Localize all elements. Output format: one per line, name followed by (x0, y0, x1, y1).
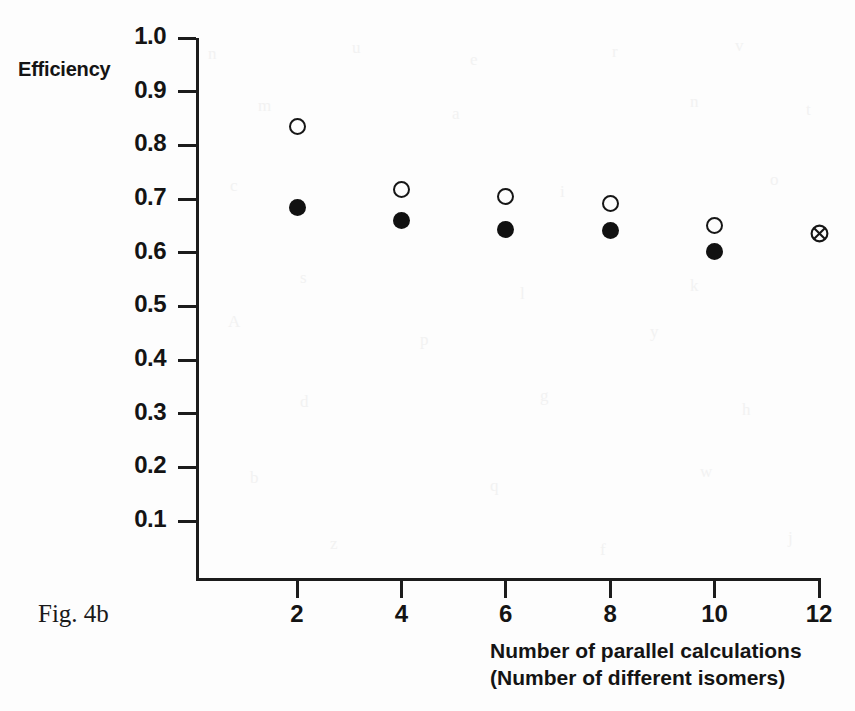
data-point-filled-circle (706, 243, 723, 260)
scan-artifact: t (806, 100, 812, 120)
y-axis-tick (178, 144, 196, 147)
y-axis-tick-label: 0.6 (108, 237, 166, 265)
scan-artifact: r (612, 42, 619, 62)
scan-artifact: u (352, 38, 362, 58)
y-axis-tick-label: 0.2 (108, 451, 166, 479)
scan-artifact: l (520, 284, 526, 304)
y-axis-tick (178, 90, 196, 93)
x-axis-tick-label: 4 (371, 600, 431, 628)
y-axis-tick (178, 37, 196, 40)
scan-artifact: h (742, 400, 752, 420)
figure-scatter-plot: nuervmantcioslkApydghbqwzfj Efficiency 0… (0, 0, 855, 711)
data-point-filled-circle (393, 212, 410, 229)
y-axis-tick-label: 0.3 (108, 398, 166, 426)
x-axis-tick (818, 581, 821, 598)
y-axis-tick-label: 0.8 (108, 129, 166, 157)
data-point-open-circle (602, 195, 619, 212)
x-axis-title-line-1: Number of parallel calculations (490, 638, 802, 665)
figure-caption: Fig. 4b (38, 600, 109, 628)
x-axis-tick (400, 581, 403, 598)
y-axis-tick-label: 0.9 (108, 76, 166, 104)
scan-artifact: b (250, 468, 260, 488)
scan-artifact: y (650, 322, 660, 342)
y-axis-tick-label: 1.0 (108, 22, 166, 50)
x-axis-title-line-2: (Number of different isomers) (490, 665, 802, 692)
y-axis-tick (178, 412, 196, 415)
x-axis-tick (296, 581, 299, 598)
scan-artifact: d (300, 392, 310, 412)
y-axis-tick (178, 198, 196, 201)
y-axis-tick-label: 0.1 (108, 505, 166, 533)
scan-artifact: w (700, 462, 713, 482)
scan-artifact: k (690, 276, 700, 296)
scan-artifact: A (228, 312, 241, 332)
x-axis-tick-label: 2 (267, 600, 327, 628)
x-axis-tick (609, 581, 612, 598)
y-axis-line (196, 38, 199, 581)
y-axis-tick-label: 0.5 (108, 290, 166, 318)
y-axis-tick (178, 251, 196, 254)
x-axis-line (196, 578, 821, 581)
data-point-filled-circle (289, 199, 306, 216)
data-point-filled-circle (497, 221, 514, 238)
scan-artifact: q (490, 476, 500, 496)
scan-artifact: v (735, 36, 745, 56)
data-point-open-circle (393, 181, 410, 198)
scan-artifact: n (690, 92, 700, 112)
scan-artifact: f (600, 540, 607, 560)
scan-artifact: i (560, 182, 566, 202)
scan-artifact: s (300, 268, 308, 288)
y-axis-tick (178, 466, 196, 469)
scan-artifact: j (788, 528, 794, 548)
y-axis-tick (178, 359, 196, 362)
x-axis-title: Number of parallel calculations (Number … (490, 638, 802, 692)
x-axis-tick (504, 581, 507, 598)
scan-artifact: g (540, 386, 550, 406)
y-axis-tick (178, 305, 196, 308)
y-axis-tick-label: 0.4 (108, 344, 166, 372)
scan-artifact: z (330, 534, 339, 554)
data-point-open-circle (497, 188, 514, 205)
x-axis-tick-label: 8 (580, 600, 640, 628)
scan-artifact: a (452, 104, 461, 124)
y-axis-title: Efficiency (18, 58, 110, 81)
scan-artifact: e (470, 50, 479, 70)
data-point-open-circle (706, 217, 723, 234)
scan-artifact: o (770, 170, 780, 190)
data-point-filled-circle (602, 222, 619, 239)
scan-artifact: m (258, 96, 272, 116)
scan-artifact: n (208, 44, 218, 64)
x-axis-tick-label: 6 (476, 600, 536, 628)
scan-artifact: c (230, 176, 239, 196)
data-point-open-circle (289, 118, 306, 135)
data-point-crossed-circle (810, 224, 829, 243)
y-axis-tick (178, 520, 196, 523)
x-axis-tick-label: 10 (685, 600, 745, 628)
x-axis-tick (713, 581, 716, 598)
scan-artifact: p (420, 330, 430, 350)
y-axis-tick-label: 0.7 (108, 183, 166, 211)
x-axis-tick-label: 12 (789, 600, 849, 628)
